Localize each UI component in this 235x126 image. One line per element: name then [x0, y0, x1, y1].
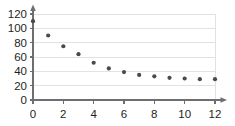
x-tick-label-0: 0: [30, 108, 36, 120]
data-point: [92, 61, 96, 65]
y-tick-label-20: 20: [14, 80, 27, 92]
y-tick-label-120: 120: [8, 8, 27, 20]
x-axis-group: 0 2 4 6 8 10 12: [30, 97, 227, 120]
y-tick-label-0: 0: [21, 94, 27, 106]
y-tick-label-100: 100: [8, 22, 27, 34]
data-point: [61, 44, 65, 48]
scatter-plot-figure: 0 20 40 60 80 100 120 0 2 4 6 8 10 12: [0, 0, 235, 126]
data-point: [152, 74, 156, 78]
data-point: [122, 70, 126, 74]
x-axis-arrowhead: [221, 97, 228, 103]
x-tick-label-12: 12: [209, 108, 222, 120]
x-tick-label-6: 6: [121, 108, 127, 120]
data-point: [76, 52, 80, 56]
y-tick-label-80: 80: [14, 37, 27, 49]
data-point: [46, 33, 50, 37]
data-point: [167, 76, 171, 80]
data-point: [198, 77, 202, 81]
y-tick-label-60: 60: [14, 51, 27, 63]
data-point: [107, 66, 111, 70]
data-point: [183, 76, 187, 80]
x-tick-label-8: 8: [151, 108, 157, 120]
chart-canvas: 0 20 40 60 80 100 120 0 2 4 6 8 10 12: [0, 0, 235, 126]
data-point: [137, 73, 141, 77]
data-point: [213, 77, 217, 81]
x-tick-label-4: 4: [90, 108, 97, 120]
x-tick-label-10: 10: [178, 108, 191, 120]
x-tick-label-2: 2: [60, 108, 66, 120]
data-point: [31, 19, 35, 23]
y-axis-arrowhead: [30, 5, 36, 12]
gridlines-group: [33, 14, 215, 100]
y-tick-label-40: 40: [14, 65, 27, 77]
